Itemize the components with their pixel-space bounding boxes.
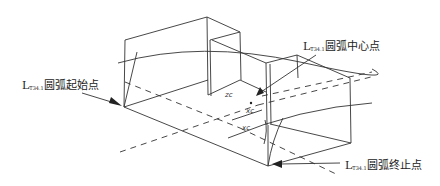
end-arrow-icon: [272, 160, 282, 168]
left-box-top-front-edge: [125, 17, 207, 40]
left-box-right-edge: [207, 17, 208, 95]
right-box-bottom-side: [270, 124, 351, 143]
dashed-centerline-1b: [258, 76, 375, 105]
dashed-centerline-1: [120, 105, 258, 152]
step-back-vertical: [240, 32, 241, 80]
end-tangent-line-2: [264, 120, 266, 144]
left-box-bottom-edge: [124, 80, 208, 107]
right-box-back-edge: [297, 55, 298, 78]
xc-axis-label-2: xc: [242, 124, 250, 132]
xc-axis-label-1: xc: [246, 107, 254, 115]
step-bottom-front: [208, 80, 240, 95]
right-box-left-edge-inner: [270, 64, 271, 124]
end-leader-line: [280, 163, 340, 164]
center-leader-line: [258, 55, 316, 94]
zc-axis-label: zc: [225, 91, 233, 99]
start-tangent-line: [124, 52, 137, 107]
arc-center-point: [250, 102, 252, 104]
right-box-left-edge: [266, 63, 267, 125]
arc-start-label: LT34.1圆弧起始点: [22, 76, 99, 92]
left-box-inner-edge: [210, 40, 211, 96]
arc-center-label: LT34.1圆弧中心点: [303, 37, 380, 53]
arc-curve-top: [118, 51, 378, 75]
dashed-centerline-2: [125, 82, 240, 128]
left-box-left-edge: [124, 40, 125, 107]
step-top-edge: [210, 32, 240, 40]
left-box-top-side-edge: [207, 17, 240, 32]
dashed-centerline-3: [262, 72, 372, 96]
right-box-right-edge: [350, 78, 351, 143]
arc-end-label: LT34.1圆弧终止点: [345, 156, 422, 172]
start-arrow-icon: [109, 97, 122, 106]
right-box-top-side: [297, 55, 350, 78]
base-front-edge: [124, 107, 268, 166]
